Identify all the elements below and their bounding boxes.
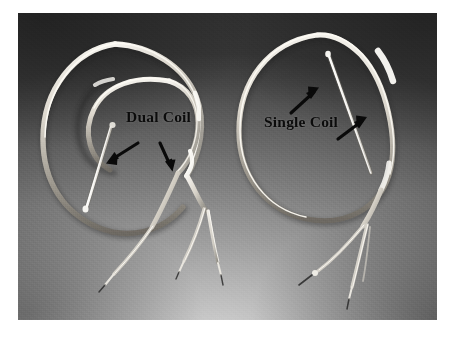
single-lead-marker-band xyxy=(378,51,393,81)
label-single-coil: Single Coil xyxy=(264,113,338,131)
arrow-dual-distal-coil xyxy=(160,143,176,172)
arrow-dual-proximal-coil xyxy=(106,143,138,165)
single-lead-connector-tails xyxy=(299,224,370,309)
figure-page: Dual Coil Single Coil xyxy=(0,0,456,337)
photograph-plate: Dual Coil Single Coil xyxy=(18,13,437,320)
arrow-single-coil-upper xyxy=(291,87,319,114)
dual-coil-lead xyxy=(43,43,223,292)
single-coil-lead xyxy=(239,34,394,309)
dual-lead-proximal-collar xyxy=(109,122,115,128)
leads-illustration xyxy=(18,13,437,320)
single-lead-distal-tip xyxy=(325,51,331,57)
dual-lead-connector-tails xyxy=(99,208,223,292)
dual-lead-body-to-connector xyxy=(187,176,206,211)
dual-lead-distal-tip xyxy=(83,205,89,212)
label-dual-coil: Dual Coil xyxy=(126,108,191,126)
